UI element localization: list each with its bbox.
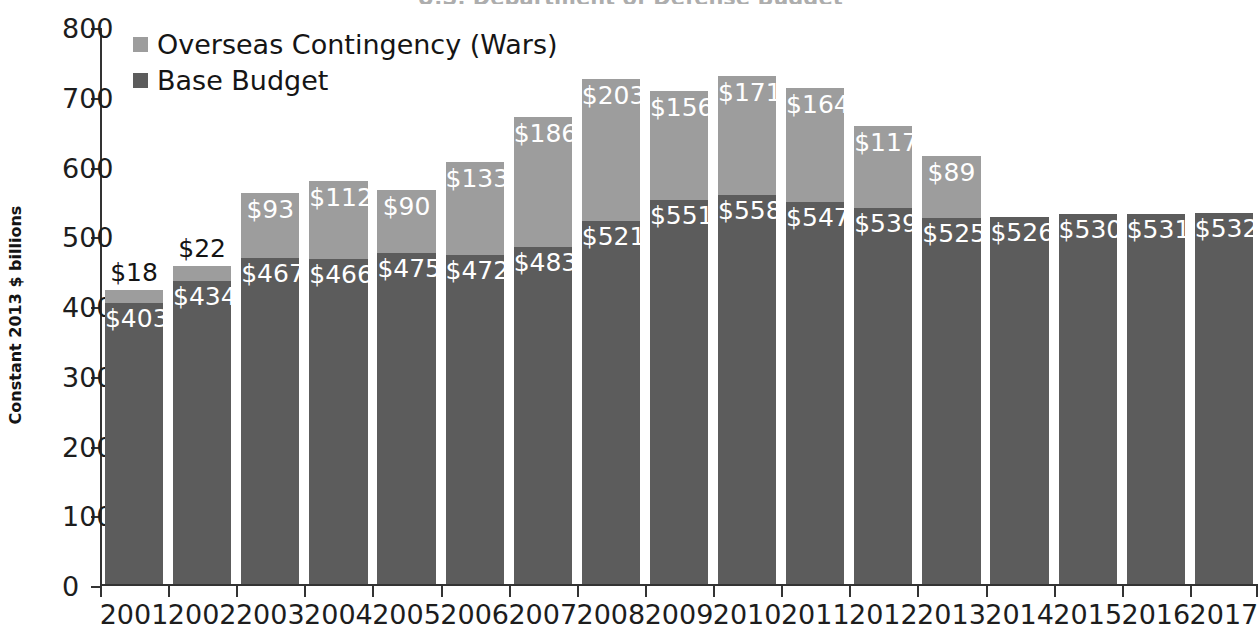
bar-segment-base-2003[interactable] (241, 258, 299, 584)
bar-2007[interactable]: $483$186 (514, 117, 572, 584)
bar-label-base-2007: $483 (514, 250, 572, 275)
x-tick-2011 (781, 586, 783, 597)
bar-2005[interactable]: $475$90 (377, 190, 435, 584)
bar-segment-base-2002[interactable] (173, 281, 231, 584)
y-tick-label-800: 800 (62, 15, 81, 42)
bar-2010[interactable]: $558$171 (718, 76, 776, 584)
legend-label: Base Budget (157, 67, 328, 94)
bar-label-oco-2013: $89 (922, 160, 980, 185)
bar-segment-base-2011[interactable] (786, 202, 844, 584)
bar-2001[interactable]: $403$18 (105, 290, 163, 584)
x-tick-2017 (1190, 586, 1192, 597)
bar-2015[interactable]: $530 (1059, 214, 1117, 584)
bar-segment-base-2009[interactable] (650, 200, 708, 584)
bar-segment-base-2012[interactable] (854, 208, 912, 584)
bar-2003[interactable]: $467$93 (241, 193, 299, 584)
x-tick-2012 (849, 586, 851, 597)
bar-segment-base-2001[interactable] (105, 303, 163, 584)
x-tick-label-2010: 2010 (713, 601, 782, 628)
bar-label-base-2016: $531 (1127, 217, 1185, 242)
bar-2012[interactable]: $539$117 (854, 126, 912, 584)
bar-segment-base-2005[interactable] (377, 253, 435, 584)
x-tick-2014 (986, 586, 988, 597)
bar-label-base-2014: $526 (990, 220, 1048, 245)
bar-segment-base-2006[interactable] (446, 255, 504, 584)
x-tick-label-2013: 2013 (917, 601, 986, 628)
bar-segment-base-2008[interactable] (582, 221, 640, 584)
bar-2017[interactable]: $532 (1195, 213, 1253, 584)
bar-label-base-2004: $466 (309, 262, 367, 287)
x-tick-2002 (168, 586, 170, 597)
x-tick-2003 (236, 586, 238, 597)
defense-budget-stacked-bar-chart: U.S. Department of Defense Budget Consta… (0, 0, 1260, 630)
x-tick-label-2002: 2002 (168, 601, 237, 628)
bar-2009[interactable]: $551$156 (650, 91, 708, 584)
chart-title-partial: U.S. Department of Defense Budget (0, 0, 1260, 4)
bar-label-oco-2003: $93 (241, 197, 299, 222)
bar-2006[interactable]: $472$133 (446, 162, 504, 584)
bar-label-base-2015: $530 (1059, 217, 1117, 242)
y-tick-label-100: 100 (62, 503, 81, 530)
bar-label-base-2005: $475 (377, 256, 435, 281)
y-tick-0 (91, 586, 100, 588)
bar-label-base-2017: $532 (1195, 216, 1253, 241)
x-tick-2015 (1054, 586, 1056, 597)
x-tick-2009 (645, 586, 647, 597)
bar-label-oco-2006: $133 (446, 166, 504, 191)
bar-label-oco-2005: $90 (377, 194, 435, 219)
bar-segment-base-2004[interactable] (309, 259, 367, 584)
x-tick-2008 (577, 586, 579, 597)
bar-label-base-2010: $558 (718, 198, 776, 223)
chart-legend: Overseas Contingency (Wars)Base Budget (133, 26, 558, 98)
x-axis-line (100, 584, 1258, 586)
x-tick-end (1256, 586, 1258, 597)
x-tick-label-2009: 2009 (645, 601, 714, 628)
x-tick-2016 (1122, 586, 1124, 597)
x-tick-label-2016: 2016 (1121, 601, 1190, 628)
bar-segment-base-2014[interactable] (990, 217, 1048, 584)
bar-label-oco-2010: $171 (718, 80, 776, 105)
bar-2004[interactable]: $466$112 (309, 181, 367, 584)
legend-label: Overseas Contingency (Wars) (157, 31, 558, 58)
x-tick-label-2007: 2007 (508, 601, 577, 628)
bar-2008[interactable]: $521$203 (582, 79, 640, 584)
legend-item-base-budget[interactable]: Base Budget (133, 62, 558, 98)
bar-label-base-2011: $547 (786, 205, 844, 230)
x-tick-label-2001: 2001 (100, 601, 169, 628)
y-tick-label-600: 600 (62, 154, 81, 181)
bar-2013[interactable]: $525$89 (922, 156, 980, 584)
bar-segment-base-2010[interactable] (718, 195, 776, 584)
bar-label-base-2001: $403 (105, 306, 163, 331)
legend-swatch-base (133, 73, 148, 88)
bar-label-base-2003: $467 (241, 261, 299, 286)
legend-swatch-oco (133, 37, 148, 52)
bar-2014[interactable]: $526 (990, 217, 1048, 584)
bar-2016[interactable]: $531 (1127, 214, 1185, 584)
bar-segment-base-2015[interactable] (1059, 214, 1117, 584)
x-tick-label-2017: 2017 (1190, 601, 1259, 628)
bar-2011[interactable]: $547$164 (786, 88, 844, 584)
bar-2002[interactable]: $434$22 (173, 266, 231, 584)
bar-segment-base-2007[interactable] (514, 247, 572, 584)
bar-label-oco-2007: $186 (514, 121, 572, 146)
y-tick-label-300: 300 (62, 363, 81, 390)
y-tick-label-700: 700 (62, 84, 81, 111)
bar-segment-oco-2001[interactable] (105, 290, 163, 303)
x-tick-label-2012: 2012 (849, 601, 918, 628)
x-tick-label-2015: 2015 (1053, 601, 1122, 628)
bar-segment-base-2013[interactable] (922, 218, 980, 584)
x-tick-label-2014: 2014 (985, 601, 1054, 628)
bar-segment-base-2017[interactable] (1195, 213, 1253, 584)
bar-label-oco-2008: $203 (582, 83, 640, 108)
bar-label-oco-2011: $164 (786, 92, 844, 117)
x-tick-2004 (304, 586, 306, 597)
legend-item-overseas-contingency[interactable]: Overseas Contingency (Wars) (133, 26, 558, 62)
x-tick-label-2005: 2005 (372, 601, 441, 628)
x-tick-2006 (441, 586, 443, 597)
bar-label-oco-2004: $112 (309, 185, 367, 210)
bar-segment-base-2016[interactable] (1127, 214, 1185, 584)
plot-area: 8007006005004003002001000 20012002200320… (100, 28, 1258, 586)
x-tick-2005 (372, 586, 374, 597)
bar-segment-oco-2002[interactable] (173, 266, 231, 281)
bar-label-base-2008: $521 (582, 224, 640, 249)
